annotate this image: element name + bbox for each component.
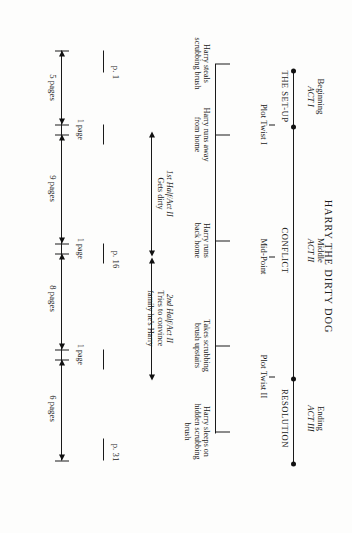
beat-1-line2: scrubbing brush [192,37,201,89]
act2-half-2-detail-2: family he's Harry [146,290,155,346]
act2-half-1-label: 1st Half/Act II [165,170,174,216]
act2-half-1-group: 1st Half/Act II Gets dirty [155,170,174,216]
act2-half-1-arrowhead-left [150,131,156,137]
act-axis-node-end [292,461,297,466]
plot-twist-1-tick [269,124,275,125]
mid-point-label: Mid-Point [258,238,268,274]
page-marker-tick-5 [103,438,104,460]
beat-1-line1: Harry steals [202,37,211,89]
act2-half-1-detail: Gets dirty [155,170,164,216]
act-axis-node-act2-end [292,376,297,381]
beat-2-line2: from home [192,107,201,161]
page-span-1-page-c: 1 page [75,344,84,365]
act-2-name: ACT II [305,238,315,263]
page-span-6-pages: 6 pages [47,395,57,422]
act-3-section: RESOLUTION [279,389,289,448]
act-2-stage-group: Middle ACT II [305,238,325,263]
span-arrow-1-right [60,118,66,124]
act2-half-1-arrowhead-right [150,250,156,256]
act-1-stage-group: Beginning ACT I [305,78,325,114]
act-3-stage: Ending [315,405,325,431]
plot-twist-1-label: Plot Twist I [258,103,268,144]
diagram-canvas: HARRY THE DIRTY DOG Beginning ACT I Midd… [0,0,352,533]
beat-stem-2 [216,134,230,135]
beat-2: Harry runs away from home [192,107,211,161]
page-span-5-pages: 5 pages [47,74,57,101]
page-marker-p31: p. 31 [110,443,120,461]
act-1-section: THE SET-UP [279,70,289,122]
page-marker-p1: p. 1 [110,65,120,78]
act-3-name: ACT III [305,405,315,431]
beat-stem-4 [216,345,230,346]
act2-half-2-detail-1: Tries to convince [155,290,164,346]
page-title: HARRY THE DIRTY DOG [322,199,334,333]
act2-half-2-group: 2nd Half/Act II Tries to convince family… [146,290,174,346]
page-marker-tick-1 [103,50,104,72]
span-arrow-7-left [60,359,66,365]
beat-5-line1: Harry sleeps on [202,403,211,459]
page-marker-tick-2 [103,124,104,144]
span-arrow-3-left [60,134,66,140]
act-2-stage: Middle [315,238,325,263]
page-span-1-page-a: 1 page [75,119,84,140]
act-axis-node-act1-end [292,124,297,129]
act2-half-2-arrowhead-left [150,257,156,263]
act2-half-2-arrowhead-right [150,374,156,380]
beat-5-line3: brush [183,403,192,459]
beat-4: Takes scrubbing brush upstairs [192,319,211,372]
act-2-section: CONFLICT [279,227,289,273]
beat-stem-5 [216,431,230,432]
beat-4-line1: Takes scrubbing [202,319,211,372]
act2-half-2-label: 2nd Half/Act II [165,290,174,346]
act-axis-node-start [292,68,297,73]
beat-stem-1 [216,63,230,64]
beat-4-line2: brush upstairs [192,319,201,372]
rotated-canvas: HARRY THE DIRTY DOG Beginning ACT I Midd… [0,0,352,533]
diagram-page: HARRY THE DIRTY DOG Beginning ACT I Midd… [0,0,352,533]
act-3-stage-group: Ending ACT III [305,405,325,431]
span-arrow-3-right [60,237,66,243]
page-span-1-page-b: 1 page [75,238,84,259]
beat-2-line1: Harry runs away [202,107,211,161]
beat-5-line2: hidden scrubbing [192,403,201,459]
act-1-stage: Beginning [315,78,325,114]
act-1-name: ACT I [305,78,315,114]
mid-point-tick [269,256,275,257]
beat-spine [215,63,216,433]
page-marker-p16: p. 16 [110,250,120,268]
plot-twist-2-tick [269,376,275,377]
span-arrow-5-left [60,253,66,259]
beat-3-line2: back home [192,222,201,257]
page-marker-tick-3 [103,243,104,263]
span-arrow-5-right [60,343,66,349]
page-span-8-pages: 8 pages [47,285,57,312]
beat-stem-3 [216,240,230,241]
span-arrow-7-right [60,454,66,460]
beat-5: Harry sleeps on hidden scrubbing brush [183,403,211,459]
page-marker-tick-4 [103,349,104,369]
page-span-9-pages: 9 pages [47,175,57,202]
beat-1: Harry steals scrubbing brush [192,37,211,89]
beat-3-line1: Harry runs [202,222,211,257]
act2-half-1-arrow [151,136,152,252]
beat-3: Harry runs back home [192,222,211,257]
plot-twist-2-label: Plot Twist II [258,354,268,398]
span-arrow-1-left [60,50,66,56]
